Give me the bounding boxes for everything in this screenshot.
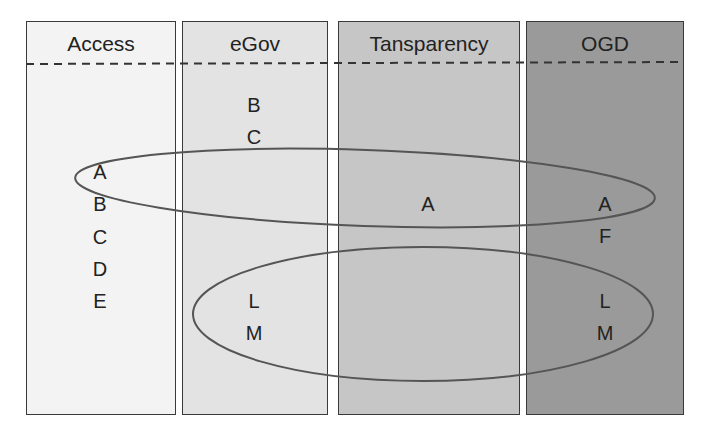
overlay-shapes xyxy=(0,0,702,438)
group-ellipse-a xyxy=(74,140,656,236)
group-ellipse-lm xyxy=(193,247,653,381)
header-divider-dashed xyxy=(26,62,684,64)
